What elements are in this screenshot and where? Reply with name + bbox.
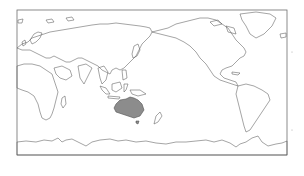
sulawesi-outline xyxy=(124,84,128,92)
speck xyxy=(292,130,293,131)
africa-outline xyxy=(17,64,58,120)
eurasia-outline xyxy=(17,23,152,74)
new-guinea-outline xyxy=(130,90,146,96)
antarctica-outline xyxy=(17,136,287,155)
north-america-outline xyxy=(152,18,246,86)
world-map xyxy=(0,0,304,176)
baffin-island-outline xyxy=(226,26,236,34)
cuba-outline xyxy=(232,72,240,75)
new-zealand-outline xyxy=(154,112,162,124)
arabia-outline xyxy=(54,66,72,80)
australia-highlight xyxy=(114,97,144,118)
sumatra-outline xyxy=(100,86,110,94)
india-outline xyxy=(78,64,92,84)
indochina-outline xyxy=(98,66,108,84)
tasmania-highlight xyxy=(136,121,139,124)
greenland-outline xyxy=(240,12,276,38)
severnaya-zemlya-outline xyxy=(66,17,74,21)
south-america-outline xyxy=(236,84,270,132)
speck xyxy=(292,52,293,53)
iceland-outline xyxy=(280,33,286,38)
borneo-outline xyxy=(112,82,122,92)
novaya-zemlya-outline xyxy=(46,19,54,23)
continent-outlines xyxy=(17,12,287,155)
madagascar-outline xyxy=(61,96,66,108)
svalbard-outline xyxy=(18,19,23,23)
philippines-outline xyxy=(122,70,127,80)
java-outline xyxy=(108,96,120,99)
